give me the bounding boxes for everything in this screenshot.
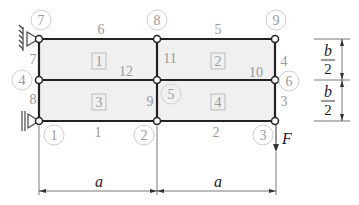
edge-label: 4 xyxy=(281,54,288,69)
edge-label: 6 xyxy=(98,22,105,37)
node-label: 3 xyxy=(260,128,267,143)
load-arrow xyxy=(273,124,279,152)
edge-label: 11 xyxy=(163,51,176,66)
node-label: 1 xyxy=(51,128,58,143)
node-label: 2 xyxy=(141,128,148,143)
edge-label: 2 xyxy=(213,125,220,140)
dimension-b-denominator: 2 xyxy=(324,102,332,118)
dimension-b-denominator: 2 xyxy=(324,61,332,77)
edge-label: 9 xyxy=(147,94,154,109)
vertical-dimension xyxy=(314,39,350,121)
dimension-label-a: a xyxy=(214,173,222,190)
edge-label: 7 xyxy=(30,52,37,67)
node-label: 4 xyxy=(19,73,26,88)
edge-label: 5 xyxy=(215,22,222,37)
mesh-diagram: 7 8 9 4 5 6 1 2 3 1 2 3 4 5 6 7 8 9 10 1… xyxy=(0,0,359,205)
edge-label: 10 xyxy=(249,65,263,80)
node-label: 6 xyxy=(286,74,293,89)
node-label: 8 xyxy=(154,13,161,28)
element-label: 3 xyxy=(96,95,103,110)
edge-label: 3 xyxy=(281,94,288,109)
element-label: 2 xyxy=(215,54,222,69)
node-label: 5 xyxy=(168,87,175,102)
edge-label: 8 xyxy=(30,92,37,107)
edge-label: 1 xyxy=(95,125,102,140)
horizontal-dimension xyxy=(39,126,276,195)
dimension-b-numerator: b xyxy=(324,42,332,59)
edge-label: 12 xyxy=(119,64,133,79)
dimension-b-numerator: b xyxy=(324,83,332,100)
node-label: 9 xyxy=(273,13,280,28)
load-label: F xyxy=(281,130,292,147)
element-label: 1 xyxy=(96,54,103,69)
dimension-label-a: a xyxy=(95,173,103,190)
node-label: 7 xyxy=(38,13,45,28)
element-label: 4 xyxy=(215,95,222,110)
